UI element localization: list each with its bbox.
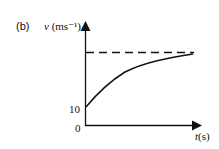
panel-label: (b) xyxy=(16,21,29,32)
y-axis-var: v xyxy=(44,20,49,32)
origin-label: 0 xyxy=(75,123,81,134)
x-axis-arrow-icon xyxy=(192,121,202,131)
velocity-curve xyxy=(86,54,193,107)
x-axis-label: t(s) xyxy=(195,131,210,142)
y-axis-unit: (ms⁻¹) xyxy=(52,20,81,32)
y-axis-label: v (ms⁻¹) xyxy=(44,21,81,32)
y-tick-10: 10 xyxy=(69,104,80,115)
velocity-time-graph xyxy=(0,0,219,149)
x-axis-unit: (s) xyxy=(198,130,210,142)
y-axis-arrow-icon xyxy=(81,21,91,31)
